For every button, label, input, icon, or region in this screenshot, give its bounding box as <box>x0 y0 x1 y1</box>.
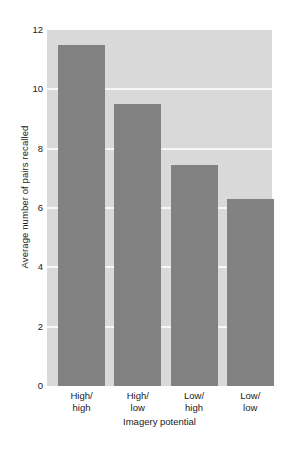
bar[interactable] <box>114 104 161 386</box>
plot-area <box>47 30 272 386</box>
bar-slot <box>58 30 105 386</box>
x-axis-tick-label-line: Low/ <box>166 390 222 402</box>
x-axis-tick-label-line: Low/ <box>222 390 278 402</box>
x-axis-tick-label-line: High/ <box>53 390 109 402</box>
y-axis-tick-label: 10 <box>9 84 43 94</box>
x-axis-tick-label: High/low <box>110 390 166 413</box>
bar[interactable] <box>171 165 218 386</box>
bars-layer <box>47 30 272 386</box>
x-axis-tick-label-line: low <box>110 402 166 414</box>
x-axis-title: Imagery potential <box>47 416 272 427</box>
y-axis-tick-labels: 024681012 <box>5 30 43 386</box>
x-axis-tick-label: High/high <box>53 390 109 413</box>
bar-slot <box>114 30 161 386</box>
x-axis-tick-label-line: High/ <box>110 390 166 402</box>
x-axis-tick-label-line: high <box>53 402 109 414</box>
bar-chart-figure: Average number of pairs recalled 0246810… <box>0 0 285 456</box>
bar-slot <box>171 30 218 386</box>
y-axis-tick-label: 12 <box>9 25 43 35</box>
bar-slot <box>227 30 274 386</box>
bar[interactable] <box>227 199 274 386</box>
y-axis-tick-label: 0 <box>9 381 43 391</box>
y-axis-tick-label: 2 <box>9 322 43 332</box>
bar[interactable] <box>58 45 105 386</box>
x-axis-tick-label: Low/high <box>166 390 222 413</box>
x-axis-tick-label-line: high <box>166 402 222 414</box>
y-axis-tick-label: 8 <box>9 144 43 154</box>
x-axis-tick-label: Low/low <box>222 390 278 413</box>
x-axis-tick-label-line: low <box>222 402 278 414</box>
y-axis-tick-label: 4 <box>9 262 43 272</box>
y-axis-tick-label: 6 <box>9 203 43 213</box>
